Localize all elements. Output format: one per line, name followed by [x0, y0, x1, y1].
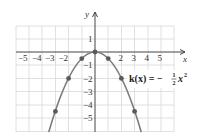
y-tick-labels: 1 −1 −2 −3 −4 −5	[83, 34, 93, 123]
fraction-denominator: 2	[173, 80, 176, 86]
x-tick-label: −5	[18, 53, 28, 63]
x-axis-label: x	[182, 54, 187, 64]
y-tick-label: −1	[83, 60, 93, 70]
x-tick-label: −4	[32, 53, 42, 63]
point-2	[119, 76, 124, 81]
y-tick-label: 1	[88, 34, 93, 44]
x-tick-label: 3	[132, 53, 137, 63]
y-tick-label: −3	[83, 87, 93, 97]
fraction-numerator: 1	[173, 72, 176, 78]
y-tick-label: −4	[83, 100, 93, 110]
function-label: k(x) = − 1 2 x 2	[127, 70, 197, 88]
point-3	[132, 109, 137, 114]
y-tick-label: −5	[83, 113, 93, 123]
function-variable: x	[177, 73, 183, 84]
x-tick-label: −3	[45, 53, 55, 63]
function-graph: x y −5 −4 −3 −2 2 3 4 5 1 −1 −2 −3 −4 −5…	[0, 0, 199, 140]
x-tick-label: 2	[119, 53, 124, 63]
point-1	[106, 56, 111, 61]
function-name: k(x) = −	[129, 73, 163, 85]
point-neg1	[79, 56, 84, 61]
x-tick-label: 4	[145, 53, 150, 63]
x-tick-label: 5	[158, 53, 163, 63]
point-neg3	[53, 109, 58, 114]
x-tick-label: −2	[59, 53, 69, 63]
point-neg2	[66, 76, 71, 81]
point-0	[93, 50, 98, 55]
y-tick-label: −2	[83, 74, 93, 84]
y-axis-label: y	[84, 9, 89, 19]
function-exponent: 2	[184, 72, 187, 78]
